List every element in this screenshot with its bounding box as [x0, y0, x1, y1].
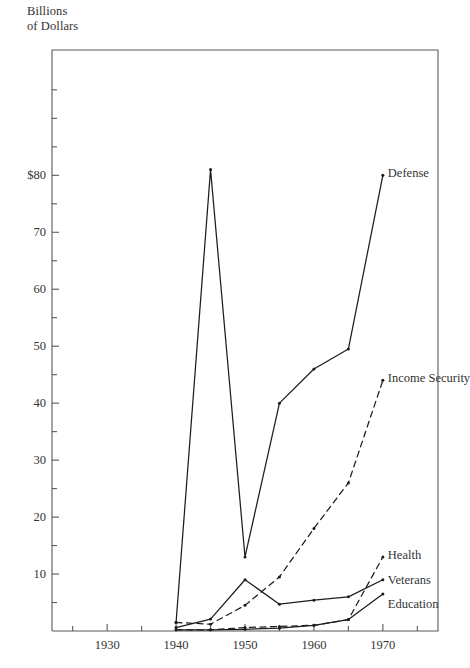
data-point — [347, 595, 350, 598]
data-point — [347, 348, 350, 351]
y-tick-label: 30 — [2, 453, 46, 468]
x-tick-label: 1960 — [284, 638, 344, 653]
data-point — [312, 367, 315, 370]
y-tick-label: 20 — [2, 510, 46, 525]
axis-ticks — [52, 90, 417, 631]
data-point — [381, 379, 384, 382]
data-point — [347, 618, 350, 621]
series-line — [176, 170, 383, 623]
data-point — [381, 592, 384, 595]
series-label-education: Education — [388, 596, 439, 611]
data-point — [312, 599, 315, 602]
data-point — [381, 578, 384, 581]
series-label-veterans: Veterans — [388, 572, 431, 587]
data-point — [381, 555, 384, 558]
data-point — [278, 402, 281, 405]
data-point — [312, 624, 315, 627]
series-line — [176, 594, 383, 630]
x-tick-label: 1950 — [215, 638, 275, 653]
y-tick-label: $80 — [2, 168, 46, 183]
y-tick-label: 10 — [2, 567, 46, 582]
data-point — [381, 174, 384, 177]
series-line — [176, 557, 383, 630]
data-series-group — [176, 170, 383, 630]
y-axis-title: Billions of Dollars — [27, 4, 78, 34]
data-point — [244, 628, 247, 631]
axis-frame — [52, 50, 438, 631]
data-point — [278, 603, 281, 606]
data-point — [209, 168, 212, 171]
series-label-defense: Defense — [388, 166, 429, 181]
data-point — [278, 627, 281, 630]
x-tick-label: 1970 — [353, 638, 413, 653]
data-point — [175, 628, 178, 631]
data-point — [312, 527, 315, 530]
data-point — [278, 575, 281, 578]
data-point — [244, 604, 247, 607]
series-label-health: Health — [388, 547, 421, 562]
y-tick-label: 50 — [2, 339, 46, 354]
data-point — [209, 628, 212, 631]
data-point — [209, 623, 212, 626]
data-point — [175, 621, 178, 624]
x-tick-label: 1930 — [77, 638, 137, 653]
data-point-markers — [175, 168, 385, 631]
series-line — [176, 380, 383, 624]
data-point — [244, 555, 247, 558]
x-tick-label: 1940 — [146, 638, 206, 653]
y-tick-label: 40 — [2, 396, 46, 411]
y-tick-label: 60 — [2, 282, 46, 297]
series-label-income-security: Income Security — [388, 371, 470, 386]
data-point — [244, 578, 247, 581]
data-point — [347, 481, 350, 484]
data-point — [209, 618, 212, 621]
y-tick-label: 70 — [2, 225, 46, 240]
